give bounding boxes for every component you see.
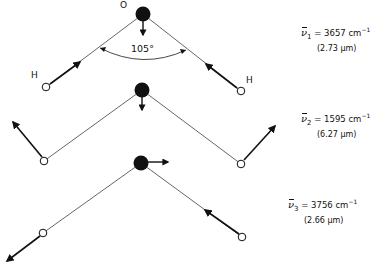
hydrogen-atom-left <box>40 157 48 165</box>
hydrogen-left-label: H <box>31 70 38 80</box>
wavenumber-unit: cm−1 <box>335 200 357 210</box>
hydrogen-atom-left <box>39 229 47 237</box>
hydrogen-right-label: H <box>246 75 253 85</box>
mode-index: 3 <box>294 205 298 213</box>
hydrogen-right-displacement-arrow <box>206 64 237 88</box>
mode-2-annotation: ν2 = 1595 cm−1 (6.27 μm) <box>301 113 370 139</box>
hydrogen-atom-right <box>238 233 246 241</box>
wavenumber-value: 1595 <box>324 114 346 124</box>
wavenumber-value: 3657 <box>324 28 346 38</box>
hydrogen-left-displacement-arrow <box>50 62 80 84</box>
angle-arrowhead-right <box>180 49 186 54</box>
wavenumber-unit: cm−1 <box>348 114 370 124</box>
angle-arrowhead-left <box>100 47 106 52</box>
oxygen-atom <box>136 7 151 22</box>
equals-sign: = <box>301 200 308 210</box>
wavelength-value: (6.27 μm) <box>317 131 370 139</box>
mode-2-molecule <box>13 83 275 168</box>
equals-sign: = <box>314 114 321 124</box>
wavelength-value: (2.66 μm) <box>304 217 357 225</box>
wavenumber-unit: cm−1 <box>348 28 370 38</box>
mode-index: 1 <box>307 33 311 41</box>
equals-sign: = <box>314 28 321 38</box>
wavenumber-value: 3756 <box>311 200 333 210</box>
hydrogen-left-displacement-arrow <box>13 122 42 157</box>
wavelength-value: (2.73 μm) <box>317 45 370 53</box>
oxygen-atom <box>135 83 150 98</box>
hydrogen-atom-right <box>237 87 245 95</box>
nu-symbol: ν <box>301 28 307 38</box>
hydrogen-right-displacement-arrow <box>205 210 239 234</box>
mode-3-annotation: ν3 = 3756 cm−1 (2.66 μm) <box>288 199 357 225</box>
hydrogen-left-displacement-arrow <box>7 236 40 261</box>
bond-left <box>44 90 142 161</box>
bond-left <box>43 163 141 233</box>
nu-symbol: ν <box>301 114 307 124</box>
bond-right <box>142 90 241 164</box>
oxygen-label: O <box>120 0 127 10</box>
nu-symbol: ν <box>288 200 294 210</box>
oxygen-atom <box>134 156 149 171</box>
hydrogen-right-displacement-arrow <box>244 126 275 160</box>
hydrogen-atom-right <box>237 160 245 168</box>
mode-1-annotation: ν1 = 3657 cm−1 (2.73 μm) <box>301 27 370 53</box>
mode-index: 2 <box>307 119 311 127</box>
hydrogen-atom-left <box>42 83 50 91</box>
mode-3-molecule <box>7 156 246 262</box>
bond-angle-label: 105° <box>131 43 154 54</box>
